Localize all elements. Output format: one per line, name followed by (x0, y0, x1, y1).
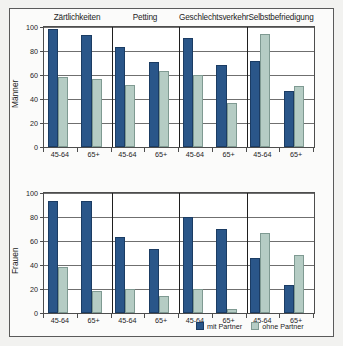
xtick-mark (313, 148, 314, 152)
bar-ohne-partner (125, 85, 135, 147)
ytick-mark (40, 289, 43, 290)
category-label-1: Petting (111, 10, 179, 25)
bar-ohne-partner (125, 289, 135, 313)
bar-ohne-partner (260, 34, 270, 147)
bar-ohne-partner (227, 103, 237, 147)
plot-area-maenner (43, 26, 315, 148)
legend-entry-mit-partner: mit Partner (196, 322, 242, 331)
ytick-label-100: 100 (12, 24, 38, 31)
xtick-mark (43, 314, 44, 318)
bar-ohne-partner (159, 296, 169, 313)
bar-mit-partner (149, 62, 159, 147)
xtick-label: 65+ (144, 314, 178, 328)
category-label-3: Selbstbefriedigung (247, 10, 315, 25)
ytick-mark (40, 217, 43, 218)
bar-mit-partner (216, 65, 226, 147)
xtick-mark (246, 148, 247, 152)
category-header-band: Zärtlichkeiten Petting Geschlechtsverkeh… (43, 10, 315, 25)
ytick-mark (40, 193, 43, 194)
bar-mit-partner (115, 47, 125, 147)
bar-ohne-partner (294, 255, 304, 313)
xtick-label: 45-64 (43, 314, 77, 328)
bar-ohne-partner (92, 291, 102, 313)
ytick-label-20: 20 (12, 286, 38, 293)
bar-ohne-partner (260, 233, 270, 313)
ytick-label-60: 60 (12, 238, 38, 245)
xtick-label: 45-64 (178, 148, 212, 162)
bar-mit-partner (183, 38, 193, 147)
category-label-0: Zärtlichkeiten (43, 10, 111, 25)
bar-ohne-partner (193, 75, 203, 147)
xtick-mark (279, 148, 280, 152)
xtick-label: 45-64 (111, 148, 145, 162)
bar-mit-partner (48, 201, 58, 313)
ytick-label-0: 0 (12, 310, 38, 317)
bar-mit-partner (81, 35, 91, 147)
xtick-mark (77, 314, 78, 318)
legend-entry-ohne-partner: ohne Partner (251, 322, 304, 331)
bar-mit-partner (284, 285, 294, 313)
plot-area-frauen (43, 192, 315, 314)
bar-mit-partner (250, 61, 260, 147)
xtick-mark (144, 314, 145, 318)
xtick-mark (77, 148, 78, 152)
ytick-mark (40, 123, 43, 124)
xtick-mark (144, 148, 145, 152)
panel-maenner (43, 26, 315, 148)
xtick-label: 65+ (77, 148, 111, 162)
xtick-label: 45-64 (246, 148, 280, 162)
xtick-mark (43, 148, 44, 152)
legend-swatch-ohne-partner (251, 322, 259, 330)
xtick-label: 65+ (144, 148, 178, 162)
ytick-mark (40, 99, 43, 100)
ytick-mark (40, 313, 43, 314)
bar-mit-partner (250, 258, 260, 313)
ytick-label-0: 0 (12, 144, 38, 151)
bar-ohne-partner (159, 71, 169, 147)
bar-mit-partner (81, 201, 91, 313)
chart-legend: mit Partner ohne Partner (196, 320, 304, 332)
xtick-mark (111, 148, 112, 152)
ytick-mark (40, 75, 43, 76)
bar-mit-partner (284, 91, 294, 147)
legend-label-ohne-partner: ohne Partner (262, 322, 304, 331)
xtick-label: 45-64 (43, 148, 77, 162)
bar-mit-partner (48, 29, 58, 147)
category-label-2: Geschlechtsverkehr (179, 10, 247, 25)
ytick-label-80: 80 (12, 214, 38, 221)
legend-swatch-mit-partner (196, 322, 204, 330)
ytick-label-60: 60 (12, 72, 38, 79)
ytick-label-20: 20 (12, 120, 38, 127)
xtick-mark (212, 148, 213, 152)
xtick-mark (279, 314, 280, 318)
bar-ohne-partner (58, 77, 68, 147)
axis-title-frauen: Frauen (10, 247, 20, 274)
ytick-label-100: 100 (12, 190, 38, 197)
ytick-mark (40, 265, 43, 266)
bar-ohne-partner (294, 86, 304, 147)
chart-figure: Zärtlichkeiten Petting Geschlechtsverkeh… (0, 0, 343, 346)
bar-ohne-partner (92, 79, 102, 147)
xtick-label: 65+ (279, 148, 313, 162)
xtick-mark (178, 314, 179, 318)
xtick-mark (212, 314, 213, 318)
category-separator (247, 27, 248, 147)
xtick-mark (313, 314, 314, 318)
xtick-mark (111, 314, 112, 318)
ytick-mark (40, 147, 43, 148)
bar-ohne-partner (227, 309, 237, 313)
category-separator (179, 27, 180, 147)
ytick-mark (40, 27, 43, 28)
xtick-row-maenner: 45-6465+45-6465+45-6465+45-6465+ (43, 148, 315, 162)
xtick-mark (178, 148, 179, 152)
category-separator (179, 193, 180, 313)
ytick-mark (40, 241, 43, 242)
ytick-mark (40, 51, 43, 52)
legend-label-mit-partner: mit Partner (207, 322, 242, 331)
bar-mit-partner (149, 249, 159, 313)
xtick-mark (246, 314, 247, 318)
bar-ohne-partner (58, 267, 68, 313)
category-separator (112, 27, 113, 147)
bar-mit-partner (183, 217, 193, 313)
axis-title-männer: Männer (10, 80, 20, 108)
